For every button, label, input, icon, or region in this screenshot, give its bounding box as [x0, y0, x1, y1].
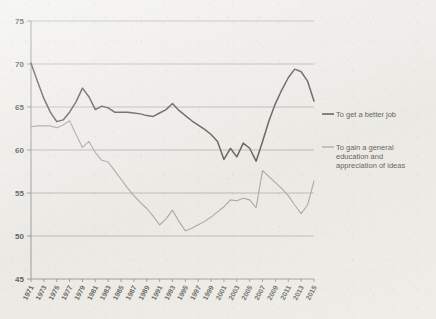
- legend-item-1[interactable]: To gain a generaleducation andappreciati…: [322, 143, 405, 170]
- y-tick-label-75: 75: [15, 17, 24, 26]
- x-tick-label-1977: 1977: [60, 284, 74, 301]
- y-tick-label-45: 45: [15, 275, 24, 284]
- x-tick-label-1999: 1999: [201, 284, 215, 301]
- x-tick-label-2003: 2003: [227, 284, 241, 301]
- series-lines: [31, 63, 314, 231]
- legend-label-1-line-0: To gain a general: [336, 143, 394, 152]
- x-tick-label-1987: 1987: [124, 284, 138, 301]
- x-tick-label-1991: 1991: [150, 284, 164, 301]
- x-tick-label-2007: 2007: [253, 284, 267, 301]
- y-axis: 45505560657075: [15, 17, 31, 284]
- chart-legend: To get a better jobTo gain a generaleduc…: [322, 110, 405, 170]
- x-tick-label-1993: 1993: [163, 284, 177, 301]
- legend-item-0[interactable]: To get a better job: [322, 110, 396, 119]
- x-tick-label-2013: 2013: [292, 284, 306, 301]
- chart-canvas: 45505560657075 1971197319751977197919811…: [0, 0, 436, 319]
- y-tick-label-50: 50: [15, 232, 24, 241]
- legend-label-0-line-0: To get a better job: [336, 110, 396, 119]
- y-tick-label-65: 65: [15, 103, 24, 112]
- x-tick-label-1981: 1981: [86, 284, 100, 301]
- x-tick-label-2005: 2005: [240, 284, 254, 301]
- y-tick-label-60: 60: [15, 146, 24, 155]
- line-chart: 45505560657075 1971197319751977197919811…: [0, 0, 436, 319]
- x-tick-label-1971: 1971: [21, 284, 35, 301]
- x-tick-label-2001: 2001: [214, 284, 228, 301]
- legend-label-1-line-1: education and: [336, 152, 383, 161]
- x-axis: 1971197319751977197919811983198519871989…: [21, 279, 318, 301]
- x-tick-label-1975: 1975: [47, 284, 61, 301]
- y-tick-label-55: 55: [15, 189, 24, 198]
- x-tick-label-2009: 2009: [266, 284, 280, 301]
- x-tick-label-2011: 2011: [279, 284, 292, 301]
- x-tick-label-1985: 1985: [111, 284, 125, 301]
- series-line-1: [31, 121, 314, 231]
- x-tick-label-1983: 1983: [99, 284, 113, 301]
- x-tick-label-1979: 1979: [73, 284, 87, 301]
- series-line-0: [31, 63, 314, 161]
- x-tick-label-2015: 2015: [304, 284, 318, 301]
- legend-label-1-line-2: appreciation of ideas: [336, 161, 405, 170]
- x-tick-label-1973: 1973: [34, 284, 48, 301]
- x-tick-label-1995: 1995: [176, 284, 190, 301]
- y-tick-label-70: 70: [15, 60, 24, 69]
- x-tick-label-1989: 1989: [137, 284, 151, 301]
- x-tick-label-1997: 1997: [189, 284, 203, 301]
